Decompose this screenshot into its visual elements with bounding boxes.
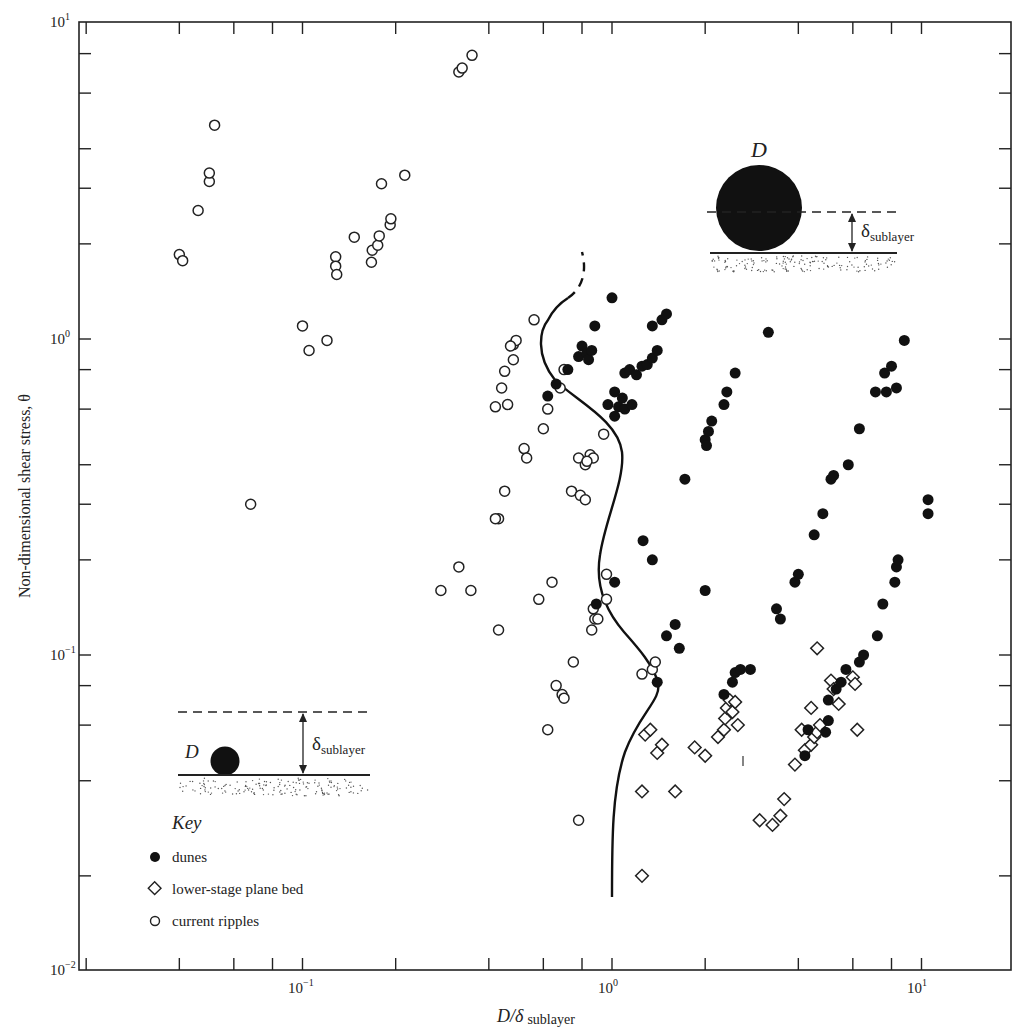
ripple-point bbox=[580, 495, 590, 505]
dune-point bbox=[881, 386, 892, 397]
y-tick-labels: 10110010−110−2 bbox=[50, 11, 76, 978]
ripple-point bbox=[500, 366, 510, 376]
x-tick-labels: 10−1100101 bbox=[288, 977, 927, 996]
ripple-point bbox=[331, 252, 341, 262]
ripple-point bbox=[490, 514, 500, 524]
dune-point bbox=[854, 423, 865, 434]
ripple-point bbox=[374, 231, 384, 241]
dune-point bbox=[679, 474, 690, 485]
dune-point bbox=[706, 416, 717, 427]
series-dunes bbox=[542, 292, 933, 761]
dune-point bbox=[647, 554, 658, 565]
ripple-point bbox=[637, 669, 647, 679]
dune-point bbox=[803, 724, 814, 735]
dune-point bbox=[638, 535, 649, 546]
dune-point bbox=[647, 320, 658, 331]
legend-dunes-icon bbox=[150, 852, 160, 862]
ripple-point bbox=[602, 594, 612, 604]
inset-d-label: D bbox=[750, 137, 767, 162]
dune-point bbox=[858, 650, 869, 661]
ripple-point bbox=[587, 625, 597, 635]
ripple-point bbox=[593, 614, 603, 624]
dune-point bbox=[542, 391, 553, 402]
dune-point bbox=[661, 308, 672, 319]
ripple-point bbox=[599, 429, 609, 439]
ripple-point bbox=[650, 657, 660, 667]
ripple-point bbox=[178, 256, 188, 266]
x-tick-label: 10−1 bbox=[288, 977, 314, 996]
ripple-point bbox=[582, 456, 592, 466]
ripple-point bbox=[508, 355, 518, 365]
ripple-point bbox=[506, 341, 516, 351]
legend-ripples-icon bbox=[151, 917, 160, 926]
y-tick-label: 101 bbox=[50, 11, 70, 30]
dune-point bbox=[661, 630, 672, 641]
legend-dunes-label: dunes bbox=[172, 849, 207, 865]
plane-bed-point bbox=[778, 793, 791, 806]
plane-bed-point bbox=[805, 702, 818, 715]
ripple-point bbox=[559, 693, 569, 703]
large-grain-icon bbox=[716, 165, 802, 251]
x-axis-title: D/δsublayer bbox=[496, 1006, 575, 1027]
dune-point bbox=[872, 630, 883, 641]
dune-point bbox=[718, 399, 729, 410]
inset-small-grain: D δsublayer bbox=[178, 712, 370, 797]
y-axis-title: Non-dimensional shear stress, θ bbox=[16, 394, 33, 598]
ripple-point bbox=[377, 179, 387, 189]
ripple-point bbox=[494, 625, 504, 635]
dune-point bbox=[586, 345, 597, 356]
ripple-point bbox=[373, 240, 383, 250]
dune-point bbox=[602, 399, 613, 410]
plane-bed-point bbox=[774, 809, 787, 822]
ripple-point bbox=[386, 214, 396, 224]
dune-point bbox=[923, 494, 934, 505]
dune-point bbox=[923, 508, 934, 519]
plane-bed-point bbox=[688, 741, 701, 754]
series-current-ripples bbox=[174, 50, 660, 825]
plane-bed-point bbox=[766, 819, 779, 832]
x-tick-label: 100 bbox=[598, 977, 618, 996]
small-grain-icon bbox=[211, 747, 240, 776]
ripple-point bbox=[332, 269, 342, 279]
dune-point bbox=[700, 585, 711, 596]
dune-point bbox=[877, 599, 888, 610]
dune-point bbox=[771, 603, 782, 614]
ripple-point bbox=[519, 444, 529, 454]
ripple-point bbox=[466, 585, 476, 595]
plane-bed-point bbox=[789, 758, 802, 771]
plane-bed-point bbox=[832, 698, 845, 711]
dune-point bbox=[670, 619, 681, 630]
dune-point bbox=[609, 386, 620, 397]
inset-large-grain: D δsublayer bbox=[707, 137, 915, 272]
y-tick-label: 10−1 bbox=[50, 644, 76, 663]
legend-plane-bed-label: lower-stage plane bed bbox=[172, 881, 304, 897]
ripple-point bbox=[457, 63, 467, 73]
plane-bed-point bbox=[636, 785, 649, 798]
plane-bed-point bbox=[753, 814, 766, 827]
dune-point bbox=[809, 529, 820, 540]
dune-point bbox=[626, 399, 637, 410]
ripple-point bbox=[500, 486, 510, 496]
ripple-point bbox=[543, 725, 553, 735]
ripple-point bbox=[534, 594, 544, 604]
dune-point bbox=[652, 677, 663, 688]
dune-point bbox=[718, 689, 729, 700]
dune-point bbox=[551, 379, 562, 390]
ripple-point bbox=[568, 657, 578, 667]
ripple-point bbox=[454, 562, 464, 572]
dune-point bbox=[730, 368, 741, 379]
dune-point bbox=[799, 750, 810, 761]
ripple-point bbox=[210, 120, 220, 130]
dune-point bbox=[891, 382, 902, 393]
ripple-point bbox=[193, 206, 203, 216]
dune-point bbox=[701, 440, 712, 451]
ripple-point bbox=[322, 335, 332, 345]
ripple-point bbox=[304, 345, 314, 355]
dune-point bbox=[721, 386, 732, 397]
ripple-point bbox=[436, 585, 446, 595]
dune-point bbox=[823, 715, 834, 726]
ripple-point bbox=[547, 577, 557, 587]
dune-point bbox=[763, 327, 774, 338]
plot-frame bbox=[79, 22, 1011, 970]
ripple-point bbox=[602, 569, 612, 579]
